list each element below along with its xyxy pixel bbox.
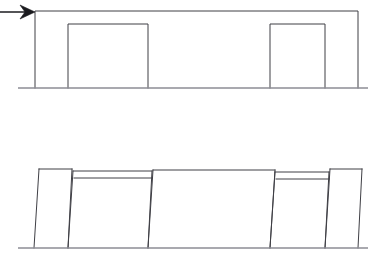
deformed-frame-panel xyxy=(18,169,368,248)
pier-1-right xyxy=(68,169,72,248)
frame-diagram-canvas xyxy=(0,0,380,258)
undeformed-outer-outline xyxy=(35,11,358,88)
undeformed-frame-panel xyxy=(18,11,368,88)
undeformed-opening-right xyxy=(270,24,325,88)
frame-diagram-figure xyxy=(0,0,380,258)
pier-4-right xyxy=(358,169,362,248)
bay-mid-right xyxy=(270,170,275,248)
pier-1-left xyxy=(34,169,39,248)
undeformed-opening-left xyxy=(68,24,148,88)
pier-2-right xyxy=(148,171,152,248)
pier-3-right xyxy=(325,172,329,248)
lateral-load-arrow xyxy=(0,5,35,19)
